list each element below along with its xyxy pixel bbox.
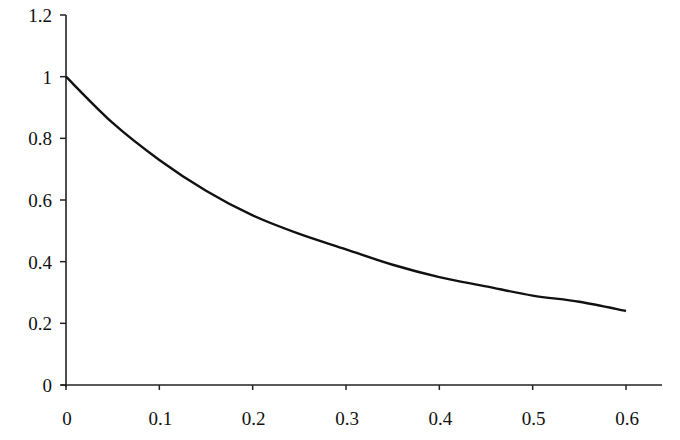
y-tick-label: 0.6 [28,190,52,211]
x-tick-label: 0 [62,408,72,429]
y-tick-label: 0.8 [28,128,52,149]
y-tick-label: 1 [43,67,53,88]
axes [61,15,662,387]
x-tick-label: 0.3 [335,408,359,429]
series-line [66,77,626,311]
x-tick-label: 0.6 [615,408,639,429]
y-tick-label: 0 [43,375,53,396]
x-tick-label: 0.2 [242,408,266,429]
x-tick-label: 0.5 [522,408,546,429]
line-chart: 00.20.40.60.811.200.10.20.30.40.50.6 [0,0,680,440]
y-tick-label: 0.2 [28,313,52,334]
x-tick-label: 0.4 [428,408,452,429]
series [66,77,626,311]
y-tick-label: 1.2 [28,5,52,26]
ticks: 00.20.40.60.811.200.10.20.30.40.50.6 [28,5,639,429]
y-tick-label: 0.4 [28,252,52,273]
x-tick-label: 0.1 [148,408,172,429]
